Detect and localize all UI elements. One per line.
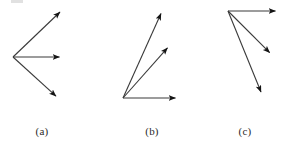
panel-a-lower-arrow bbox=[13, 57, 56, 96]
panel-b-vectors bbox=[123, 14, 176, 99]
panel-c-steep-arrow bbox=[228, 11, 261, 92]
vector-diagram-figure: (a) (b) (c) bbox=[0, 0, 290, 148]
panel-a-upper-arrow bbox=[13, 12, 60, 57]
panel-a-vectors bbox=[13, 12, 60, 96]
panel-c-middle-arrow bbox=[228, 11, 270, 53]
panel-label-c: (c) bbox=[239, 125, 252, 137]
panel-b-steep-arrow bbox=[123, 14, 161, 99]
panel-c-vectors bbox=[228, 11, 276, 92]
panel-b-middle-arrow bbox=[123, 48, 168, 98]
panel-label-a: (a) bbox=[36, 125, 49, 137]
panel-label-b: (b) bbox=[145, 125, 158, 137]
